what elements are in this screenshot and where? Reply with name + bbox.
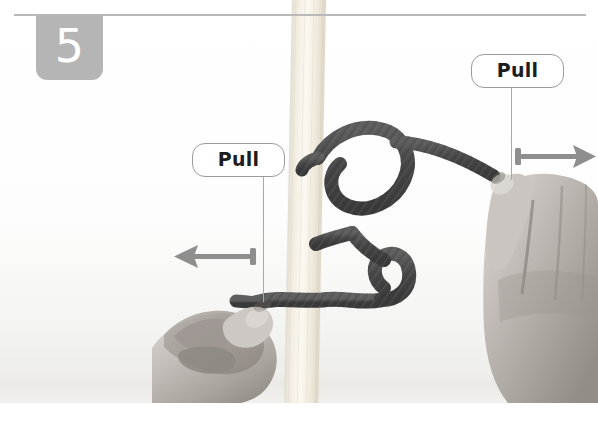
callout-pull-right: Pull <box>471 54 564 88</box>
callout-leader-right <box>511 88 512 180</box>
arrow-right-icon <box>513 144 598 170</box>
rope-segment-post-wrap <box>302 158 318 170</box>
hand-left <box>150 262 290 403</box>
step-number-badge: 5 <box>36 15 103 80</box>
callout-pull-left: Pull <box>192 143 285 177</box>
hand-right <box>478 160 598 403</box>
callout-leader-left <box>263 177 264 302</box>
arrow-left-icon <box>172 244 260 270</box>
instruction-figure: 5 Pull Pull <box>0 0 598 427</box>
rope-segment-left-tag <box>316 233 352 244</box>
